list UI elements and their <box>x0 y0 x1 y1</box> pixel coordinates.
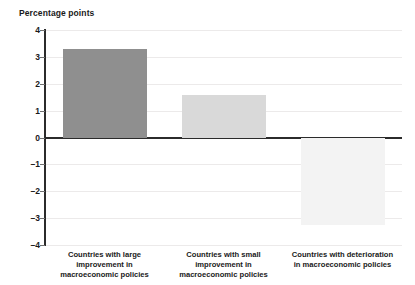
category-label-line: improvement in <box>164 260 283 270</box>
plot-area <box>45 30 402 245</box>
category-label-line: Countries with large <box>45 250 164 260</box>
category-label-line: in macroeconomic policies <box>283 260 402 270</box>
bar-3 <box>301 138 385 225</box>
y-tick-label: 4 <box>0 25 40 35</box>
category-label-line: macroeconomic policies <box>45 270 164 280</box>
y-tick-label: 2 <box>0 79 40 89</box>
y-tick-mark <box>40 245 45 246</box>
category-label-line: Countries with deterioration <box>283 250 402 260</box>
bar-1 <box>63 49 147 138</box>
y-tick-label: 3 <box>0 52 40 62</box>
category-label-line: Countries with small <box>164 250 283 260</box>
y-tick-mark <box>40 84 45 85</box>
y-tick-mark <box>40 164 45 165</box>
y-tick-mark <box>40 138 45 139</box>
bar-series <box>45 30 402 245</box>
y-tick-label: –2 <box>0 186 40 196</box>
gridline--4 <box>45 245 402 246</box>
y-tick-mark <box>40 218 45 219</box>
y-tick-label: –4 <box>0 240 40 250</box>
category-label-line: macroeconomic policies <box>164 270 283 280</box>
bar-2 <box>182 95 266 138</box>
category-label-line: improvement in <box>45 260 164 270</box>
y-axis-title: Percentage points <box>19 8 94 18</box>
y-tick-label: 0 <box>0 133 40 143</box>
category-label-2: Countries with smallimprovement inmacroe… <box>164 250 283 281</box>
y-tick-label: –1 <box>0 159 40 169</box>
y-tick-mark <box>40 30 45 31</box>
y-tick-mark <box>40 57 45 58</box>
category-label-3: Countries with deteriorationin macroecon… <box>283 250 402 270</box>
y-tick-label: –3 <box>0 213 40 223</box>
y-tick-mark <box>40 111 45 112</box>
bar-chart: Percentage points 43210–1–2–3–4 Countrie… <box>0 0 415 285</box>
y-tick-mark <box>40 191 45 192</box>
category-label-1: Countries with largeimprovement inmacroe… <box>45 250 164 281</box>
y-axis-tick-labels: 43210–1–2–3–4 <box>0 30 40 245</box>
y-tick-label: 1 <box>0 106 40 116</box>
x-axis-category-labels: Countries with largeimprovement inmacroe… <box>45 250 402 283</box>
